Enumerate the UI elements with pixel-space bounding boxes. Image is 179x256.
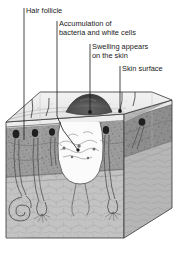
follicle-opening-2	[32, 129, 38, 137]
marker-accumulation	[76, 148, 79, 151]
subcutaneous-layer-front	[6, 168, 124, 238]
callout-label-swelling-line1: Swelling appears	[92, 42, 149, 51]
callout-accumulation: Accumulation of bacteria and white cells	[57, 19, 136, 41]
callout-label-swelling-line2: on the skin	[92, 51, 128, 60]
skin-boil-diagram: Hair follicle Accumulation of bacteria a…	[0, 0, 179, 256]
follicle-opening-right	[139, 118, 146, 126]
callout-hair-follicle: Hair follicle	[24, 6, 62, 18]
callout-skin-surface: Skin surface	[120, 64, 163, 78]
follicle-opening-4	[103, 126, 109, 134]
follicle-opening-1	[13, 130, 20, 138]
callout-label-accumulation-line1: Accumulation of	[59, 19, 113, 28]
callout-label-skin-surface: Skin surface	[122, 64, 163, 73]
abscess-cavity	[58, 118, 103, 184]
callout-label-hair-follicle: Hair follicle	[26, 6, 62, 15]
illustration-page: Hair follicle Accumulation of bacteria a…	[0, 0, 179, 256]
marker-skin-surface	[118, 109, 122, 113]
callout-labels: Hair follicle Accumulation of bacteria a…	[24, 6, 163, 78]
follicle-opening-3	[49, 128, 55, 136]
marker-swelling	[88, 110, 92, 114]
callout-label-accumulation-line2: bacteria and white cells	[59, 28, 136, 37]
callout-swelling: Swelling appears on the skin	[90, 42, 149, 64]
right-side-face	[122, 99, 174, 238]
